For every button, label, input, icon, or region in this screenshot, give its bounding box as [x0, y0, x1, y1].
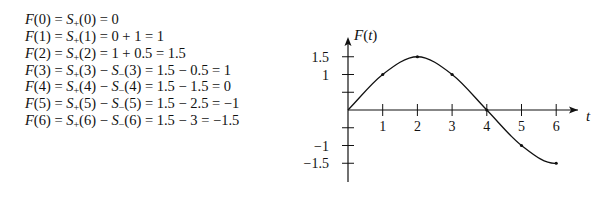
y-axis-label: F(t): [353, 27, 377, 44]
y-tick-label: 1: [322, 68, 329, 83]
y-tick-label: 1.5: [312, 50, 330, 65]
data-point: [555, 162, 558, 165]
x-tick-label: 3: [449, 119, 456, 134]
data-point: [485, 108, 488, 111]
x-axis-label: t: [586, 108, 591, 124]
x-tick-label: 1: [379, 119, 386, 134]
data-point: [520, 144, 523, 147]
data-point: [416, 55, 419, 58]
x-tick-label: 2: [414, 119, 421, 134]
x-tick-label: 5: [518, 119, 525, 134]
line-chart: 1234561.51−1−1.5 F(t) t: [0, 0, 613, 202]
x-tick-label: 6: [553, 119, 560, 134]
data-point: [451, 73, 454, 76]
y-tick-label: −1: [314, 139, 329, 154]
y-tick-label: −1.5: [304, 156, 329, 171]
x-tick-label: 4: [483, 119, 490, 134]
data-point: [381, 73, 384, 76]
